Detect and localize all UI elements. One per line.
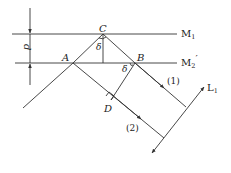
- label-c: C: [99, 23, 107, 34]
- label-ray-1: (1): [167, 76, 180, 86]
- label-m2-main: M: [181, 57, 191, 68]
- label-d: D: [103, 103, 112, 114]
- label-b: B: [136, 52, 144, 63]
- label-l1-sub: 1: [214, 87, 218, 95]
- lens-l1-line-lower: [152, 120, 178, 153]
- label-ray-2: (2): [126, 123, 139, 133]
- label-m2-prime-mark: ′: [195, 53, 198, 64]
- label-l1: L1: [207, 82, 218, 95]
- incident-ray: [23, 63, 73, 108]
- label-m1: M1: [181, 28, 195, 41]
- label-m1-sub: 1: [191, 33, 195, 41]
- label-m2-prime: M2′: [181, 53, 198, 70]
- label-angle-b: δ: [122, 64, 127, 74]
- label-a: A: [61, 52, 69, 63]
- label-m1-main: M: [181, 28, 191, 39]
- ray-2-arrow: [111, 94, 141, 119]
- label-d-thickness: d: [22, 44, 33, 50]
- interferometer-diagram: C A B D δ δ d M1 M2′ (1) (2) L1: [0, 0, 231, 173]
- ray-1-arrow: [135, 63, 164, 88]
- label-angle-c: δ: [96, 42, 101, 52]
- ray-c-to-b: [103, 34, 135, 63]
